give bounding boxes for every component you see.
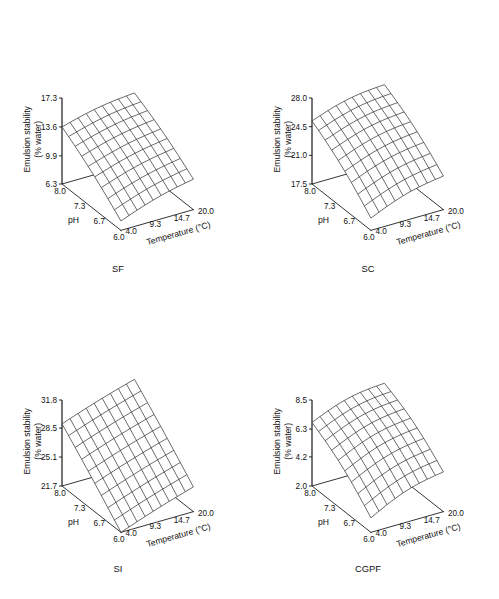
z-tick-label: 13.6 — [41, 123, 57, 132]
z-axis-label-line2: (% water) — [283, 423, 293, 460]
temperature-tick-label: 20.0 — [448, 207, 464, 216]
temperature-tick-label: 9.3 — [400, 220, 412, 229]
ph-tick-label: 6.0 — [113, 535, 125, 544]
temperature-tick-label: 9.3 — [150, 220, 162, 229]
panel-caption: SI — [114, 563, 123, 574]
panel-caption: CGPF — [355, 563, 381, 574]
z-axis-label-line2: (% water) — [33, 423, 43, 460]
z-axis-label-line1: Emulsion stability — [22, 407, 32, 474]
temperature-tick-label: 14.7 — [174, 516, 190, 525]
z-tick-label: 24.5 — [291, 123, 307, 132]
z-axis-ticks: 2.04.26.38.5 — [296, 396, 312, 491]
temperature-tick-label: 14.7 — [424, 516, 440, 525]
z-tick-label: 25.1 — [41, 453, 57, 462]
temperature-tick-label: 4.0 — [125, 227, 137, 236]
figure-container: 6.39.913.617.3Emulsion stability(% water… — [0, 0, 499, 599]
ph-tick-label: 8.0 — [54, 489, 66, 498]
temperature-tick-label: 14.7 — [424, 214, 440, 223]
z-tick-label: 4.2 — [296, 453, 308, 462]
z-tick-label: 21.0 — [291, 151, 307, 160]
z-tick-label: 28.0 — [291, 94, 307, 103]
z-tick-label: 31.8 — [41, 396, 57, 405]
z-tick-label: 28.5 — [41, 424, 57, 433]
surface-svg: 21.725.128.531.8Emulsion stability(% wat… — [0, 300, 249, 599]
z-tick-label: 9.9 — [46, 152, 58, 161]
ph-tick-label: 6.0 — [363, 233, 375, 242]
ph-axis-label: pH — [318, 517, 329, 527]
ph-axis-label: pH — [318, 215, 329, 225]
panel-caption: SC — [361, 263, 374, 274]
surface-plot-si: 21.725.128.531.8Emulsion stability(% wat… — [0, 300, 249, 599]
ph-tick-label: 8.0 — [304, 187, 316, 196]
temperature-tick-label: 9.3 — [400, 522, 412, 531]
surface-plot-cgpf: 2.04.26.38.5Emulsion stability(% water)8… — [250, 300, 499, 599]
ph-tick-label: 6.7 — [94, 217, 106, 226]
temperature-tick-label: 20.0 — [198, 207, 214, 216]
z-axis-label-line1: Emulsion stability — [22, 105, 32, 172]
ph-tick-label: 6.0 — [113, 233, 125, 242]
z-tick-label: 8.5 — [296, 396, 308, 405]
z-axis-label-line1: Emulsion stability — [272, 105, 282, 172]
temperature-tick-label: 4.0 — [375, 227, 387, 236]
z-tick-label: 17.3 — [41, 94, 57, 103]
temperature-tick-label: 20.0 — [198, 509, 214, 518]
ph-tick-label: 8.0 — [304, 489, 316, 498]
ph-tick-label: 7.3 — [324, 202, 336, 211]
ph-tick-label: 6.7 — [94, 519, 106, 528]
ph-tick-label: 7.3 — [74, 504, 86, 513]
z-axis-label-line1: Emulsion stability — [272, 407, 282, 474]
z-axis-ticks: 17.521.024.528.0 — [291, 94, 312, 189]
ph-tick-label: 7.3 — [74, 202, 86, 211]
surface-svg: 17.521.024.528.0Emulsion stability(% wat… — [250, 0, 499, 299]
temperature-tick-label: 9.3 — [150, 522, 162, 531]
ph-tick-label: 8.0 — [54, 187, 66, 196]
ph-tick-label: 6.0 — [363, 535, 375, 544]
ph-tick-label: 6.7 — [344, 217, 356, 226]
temperature-tick-label: 4.0 — [125, 529, 137, 538]
panel-caption: SF — [112, 263, 124, 274]
surface-svg: 6.39.913.617.3Emulsion stability(% water… — [0, 0, 249, 299]
ph-axis-label: pH — [68, 517, 79, 527]
z-axis-label-line2: (% water) — [283, 121, 293, 158]
z-axis-ticks: 6.39.913.617.3 — [41, 94, 62, 189]
z-tick-label: 6.3 — [296, 425, 308, 434]
z-axis-label-line2: (% water) — [33, 121, 43, 158]
surface-plot-sc: 17.521.024.528.0Emulsion stability(% wat… — [250, 0, 499, 299]
surface-svg: 2.04.26.38.5Emulsion stability(% water)8… — [250, 300, 499, 599]
ph-tick-label: 6.7 — [344, 519, 356, 528]
temperature-tick-label: 14.7 — [174, 214, 190, 223]
ph-tick-label: 7.3 — [324, 504, 336, 513]
surface-plot-sf: 6.39.913.617.3Emulsion stability(% water… — [0, 0, 249, 299]
temperature-tick-label: 4.0 — [375, 529, 387, 538]
temperature-tick-label: 20.0 — [448, 509, 464, 518]
z-axis-ticks: 21.725.128.531.8 — [41, 396, 62, 491]
ph-axis-label: pH — [68, 215, 79, 225]
